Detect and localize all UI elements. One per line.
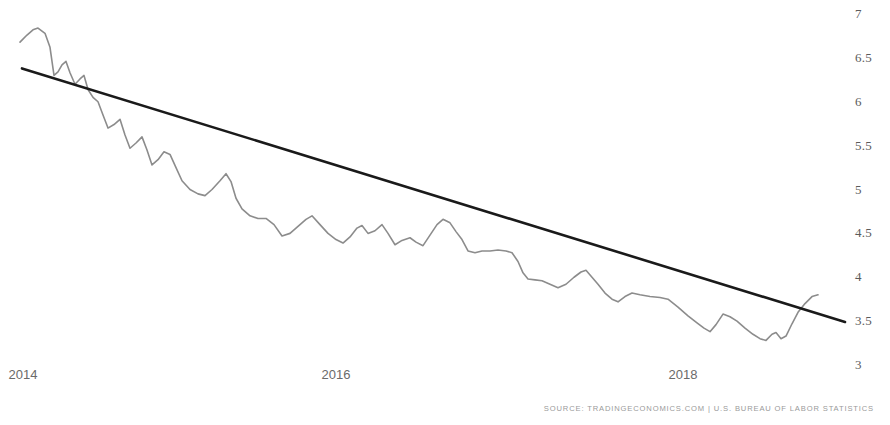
chart-container: 76.565.554.543.53 201420162018 SOURCE: T… — [0, 0, 890, 425]
chart-plot-area — [0, 0, 890, 425]
source-note: SOURCE: TRADINGECONOMICS.COM | U.S. BURE… — [544, 404, 874, 413]
trend-line — [22, 68, 845, 322]
x-tick-label: 2016 — [322, 367, 351, 382]
x-tick-label: 2014 — [9, 367, 38, 382]
x-tick-label: 2018 — [669, 367, 698, 382]
series-line-unemployment-rate — [20, 28, 818, 340]
